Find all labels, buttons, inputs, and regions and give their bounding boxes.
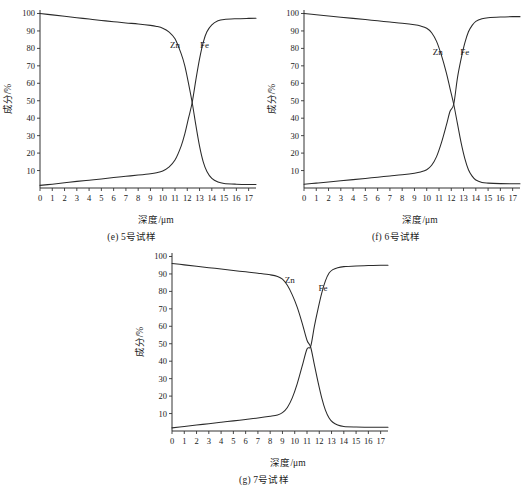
svg-text:4: 4 (351, 193, 356, 203)
svg-text:5: 5 (231, 436, 235, 446)
svg-text:6: 6 (376, 193, 380, 203)
svg-text:30: 30 (159, 374, 168, 384)
svg-text:5: 5 (363, 193, 367, 203)
caption-e: (e) 5号试样 (0, 229, 264, 243)
series-label-zn-g: Zn (285, 275, 295, 285)
svg-text:9: 9 (412, 193, 416, 203)
svg-text:4: 4 (87, 193, 92, 203)
svg-text:10: 10 (422, 193, 431, 203)
plot-area-f: 1020304050607080901000123456789101112131… (264, 0, 528, 228)
y-axis-ticks-e: 102030405060708090100 (22, 8, 40, 175)
svg-text:12: 12 (447, 193, 456, 203)
svg-text:0: 0 (170, 436, 174, 446)
svg-text:5: 5 (99, 193, 103, 203)
svg-text:17: 17 (508, 193, 516, 203)
svg-text:100: 100 (22, 8, 35, 18)
axes-f (304, 10, 520, 188)
svg-text:17: 17 (244, 193, 253, 203)
chart-panel-g: 1020304050607080901000123456789101112131… (132, 243, 396, 486)
svg-text:90: 90 (27, 26, 36, 36)
caption-g: (g) 7号试样 (132, 472, 396, 486)
x-axis-ticks-g: 01234567891011121314151617 (170, 431, 385, 446)
svg-text:13: 13 (327, 436, 336, 446)
series-curve-fe-e (40, 18, 256, 185)
svg-text:14: 14 (208, 193, 217, 203)
plot-area-e: 1020304050607080901000123456789101112131… (0, 0, 264, 228)
svg-text:8: 8 (268, 436, 272, 446)
series-curve-zn-f (304, 13, 520, 183)
chart-panel-e: 1020304050607080901000123456789101112131… (0, 0, 264, 243)
svg-text:80: 80 (159, 286, 168, 296)
series-label-fe-g: Fe (318, 283, 327, 293)
series-curve-fe-f (304, 17, 520, 185)
svg-text:70: 70 (27, 61, 36, 71)
svg-text:2: 2 (326, 193, 330, 203)
svg-text:70: 70 (159, 304, 168, 314)
svg-text:20: 20 (159, 391, 168, 401)
svg-text:4: 4 (219, 436, 224, 446)
svg-text:0: 0 (302, 193, 306, 203)
svg-text:40: 40 (291, 113, 300, 123)
x-axis-title-e: 深度/μm (138, 214, 174, 225)
svg-text:3: 3 (339, 193, 343, 203)
svg-text:2: 2 (62, 193, 66, 203)
svg-text:1: 1 (50, 193, 54, 203)
svg-text:90: 90 (291, 26, 300, 36)
svg-text:20: 20 (27, 148, 36, 158)
svg-text:13: 13 (459, 193, 468, 203)
chart-svg-f: 1020304050607080901000123456789101112131… (264, 0, 528, 228)
svg-text:10: 10 (290, 436, 299, 446)
chart-svg-g: 1020304050607080901000123456789101112131… (132, 243, 396, 471)
svg-text:60: 60 (291, 78, 300, 88)
svg-text:30: 30 (291, 131, 300, 141)
svg-text:100: 100 (286, 8, 299, 18)
axes-g (172, 253, 388, 431)
y-axis-title-f: 成分/% (266, 84, 277, 115)
svg-text:15: 15 (352, 436, 361, 446)
y-axis-title-g: 成分/% (134, 327, 145, 358)
y-axis-ticks-g: 102030405060708090100 (154, 251, 172, 418)
caption-f: (f) 6号试样 (264, 229, 528, 243)
svg-text:9: 9 (148, 193, 152, 203)
series-label-fe-e: Fe (200, 40, 209, 50)
axes-e (40, 10, 256, 188)
series-label-fe-f: Fe (460, 47, 469, 57)
svg-text:17: 17 (376, 436, 385, 446)
x-axis-title-f: 深度/μm (402, 214, 438, 225)
y-axis-title-e: 成分/% (2, 84, 13, 115)
svg-text:10: 10 (158, 193, 167, 203)
series-curve-fe-g (172, 265, 388, 428)
svg-text:6: 6 (112, 193, 116, 203)
svg-text:7: 7 (124, 193, 128, 203)
svg-text:0: 0 (38, 193, 42, 203)
svg-text:50: 50 (291, 96, 300, 106)
svg-text:40: 40 (27, 113, 36, 123)
series-curve-zn-g (172, 263, 388, 427)
svg-text:10: 10 (291, 166, 300, 176)
svg-text:80: 80 (291, 43, 300, 53)
svg-text:11: 11 (435, 193, 443, 203)
svg-text:11: 11 (303, 436, 311, 446)
x-axis-ticks-f: 01234567891011121314151617 (302, 188, 517, 203)
svg-text:60: 60 (159, 321, 168, 331)
svg-text:2: 2 (194, 436, 198, 446)
svg-text:70: 70 (291, 61, 300, 71)
svg-text:3: 3 (75, 193, 79, 203)
svg-text:14: 14 (472, 193, 481, 203)
svg-text:20: 20 (291, 148, 300, 158)
svg-text:16: 16 (232, 193, 241, 203)
svg-text:7: 7 (388, 193, 392, 203)
svg-text:8: 8 (400, 193, 404, 203)
chart-panel-f: 1020304050607080901000123456789101112131… (264, 0, 528, 243)
svg-text:80: 80 (27, 43, 36, 53)
svg-text:15: 15 (484, 193, 493, 203)
svg-text:10: 10 (27, 166, 36, 176)
svg-text:1: 1 (314, 193, 318, 203)
svg-text:16: 16 (364, 436, 373, 446)
svg-text:60: 60 (27, 78, 36, 88)
svg-text:3: 3 (207, 436, 211, 446)
svg-text:8: 8 (136, 193, 140, 203)
svg-text:14: 14 (340, 436, 349, 446)
svg-text:16: 16 (496, 193, 505, 203)
chart-svg-e: 1020304050607080901000123456789101112131… (0, 0, 264, 228)
